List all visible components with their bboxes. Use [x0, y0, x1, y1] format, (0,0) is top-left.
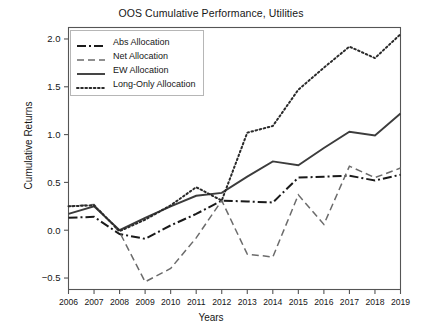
legend-label: EW Allocation	[113, 65, 169, 75]
chart-legend: Abs AllocationNet AllocationEW Allocatio…	[70, 30, 204, 96]
x-tick-label: 2012	[212, 297, 231, 307]
x-tick-label: 2009	[136, 297, 155, 307]
series-line-2	[69, 114, 401, 231]
legend-item-0: Abs Allocation	[76, 35, 196, 49]
x-tick-label: 2006	[59, 297, 78, 307]
x-tick-label: 2010	[161, 297, 180, 307]
series-line-1	[69, 166, 401, 282]
y-tick-label: 0.5	[47, 177, 60, 188]
legend-item-1: Net Allocation	[76, 49, 196, 63]
x-tick-label: 2014	[263, 297, 282, 307]
legend-item-2: EW Allocation	[76, 63, 196, 77]
legend-label: Long-Only Allocation	[113, 79, 196, 89]
y-tick-label: 2.0	[47, 33, 60, 44]
legend-item-3: Long-Only Allocation	[76, 77, 196, 91]
legend-label: Abs Allocation	[113, 37, 170, 47]
x-tick-label: 2017	[340, 297, 359, 307]
legend-swatch-dotted-icon	[76, 79, 106, 89]
legend-swatch-solid-icon	[76, 65, 106, 75]
y-tick-label: 1.0	[47, 129, 60, 140]
legend-swatch-dashdot-icon	[76, 37, 106, 47]
x-tick-label: 2016	[314, 297, 333, 307]
x-tick-label: 2018	[365, 297, 384, 307]
y-tick-label: 0.0	[47, 225, 60, 236]
x-tick-label: 2008	[110, 297, 129, 307]
legend-swatch-dashed-icon	[76, 51, 106, 61]
plot-area: −0.50.00.51.01.52.0 20062007200820092010…	[0, 0, 422, 335]
x-tick-label: 2011	[187, 297, 206, 307]
x-tick-label: 2015	[289, 297, 308, 307]
x-tick-label: 2013	[238, 297, 257, 307]
legend-label: Net Allocation	[113, 51, 168, 61]
y-tick-label: 1.5	[47, 81, 60, 92]
x-tick-label: 2019	[391, 297, 410, 307]
y-tick-label: −0.5	[42, 272, 61, 283]
chart-container: OOS Cumulative Performance, Utilities Cu…	[0, 0, 422, 335]
x-axis-ticks: 2006200720082009201020112012201320142015…	[59, 290, 410, 307]
x-tick-label: 2007	[84, 297, 103, 307]
y-axis-ticks: −0.50.00.51.01.52.0	[42, 33, 69, 283]
